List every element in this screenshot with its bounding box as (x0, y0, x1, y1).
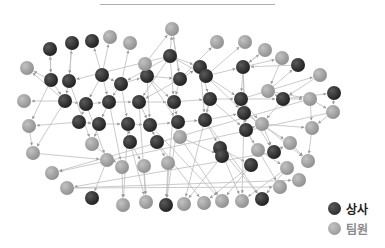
team-node (292, 173, 306, 187)
edge-arrow (37, 123, 72, 126)
boss-node (85, 34, 99, 48)
edge-arrow (318, 116, 327, 123)
boss-node (159, 198, 173, 212)
edge-arrow (253, 127, 255, 128)
edge-arrow (242, 74, 243, 91)
edge-arrow (82, 111, 84, 115)
boss-node (62, 74, 76, 88)
boss-node (167, 95, 181, 109)
edge-arrow (309, 135, 311, 153)
team-node (138, 57, 152, 71)
team-node (251, 143, 265, 157)
boss-node (255, 192, 269, 206)
team-node (116, 198, 130, 212)
team-node (210, 35, 224, 49)
boss-node (102, 95, 116, 109)
edge-arrow (157, 123, 170, 124)
edge-arrow (186, 140, 214, 153)
team-node (103, 30, 117, 44)
team-node (173, 130, 187, 144)
boss-node (239, 123, 253, 137)
edge-arrow (86, 123, 91, 124)
edge-arrow (30, 133, 32, 145)
edge-arrow (142, 108, 147, 118)
boss-node (173, 72, 187, 86)
team-node (137, 159, 151, 173)
boss-node (79, 97, 93, 111)
edge-arrow (175, 109, 176, 114)
team-node (261, 84, 275, 98)
team-node (60, 181, 74, 195)
team-node (139, 195, 153, 209)
edge-arrow (93, 103, 101, 104)
team-node (255, 117, 269, 131)
boss-node (132, 95, 146, 109)
edge-arrow (122, 174, 123, 197)
edge-arrow (249, 54, 259, 62)
edge-arrow (280, 147, 283, 149)
team-node (275, 51, 289, 65)
team-node (238, 35, 252, 49)
edge-arrow (211, 47, 239, 71)
edge-arrow (154, 77, 172, 79)
edge-arrow (271, 64, 279, 83)
boss-node (143, 118, 157, 132)
edge-arrow (40, 154, 99, 160)
team-node (258, 43, 272, 57)
boss-node (85, 191, 99, 205)
boss-node (121, 117, 135, 131)
team-node (305, 121, 319, 135)
boss-node (236, 60, 250, 74)
edge-arrow (122, 91, 126, 116)
team-node (123, 36, 137, 50)
boss-node (199, 69, 213, 83)
boss-node (203, 92, 217, 106)
edge-arrow (275, 95, 277, 96)
team-node (161, 156, 175, 170)
boss-node (72, 115, 86, 129)
legend-label-boss: 상사 (346, 200, 368, 217)
edge-arrow (171, 37, 172, 49)
boss-node (150, 135, 164, 149)
team-node (22, 119, 36, 133)
edge-arrow (181, 100, 202, 102)
boss-node (267, 145, 281, 159)
team-node (26, 146, 40, 160)
legend-item-boss: 상사 (328, 200, 368, 217)
edge-arrow (110, 109, 120, 159)
team-node (273, 180, 287, 194)
edge-arrow (185, 121, 197, 122)
boss-node (114, 77, 128, 91)
boss-node (58, 94, 72, 108)
boss-node (92, 117, 106, 131)
team-node (280, 161, 294, 175)
edge-arrow (33, 86, 49, 119)
edge-arrow (90, 81, 99, 97)
edge-arrow (153, 132, 154, 135)
team-node (17, 94, 31, 108)
team-node (20, 61, 34, 75)
team-node (177, 197, 191, 211)
team-node (197, 196, 211, 210)
team-node (283, 136, 297, 150)
boss-node (140, 69, 154, 83)
edge-arrow (50, 56, 51, 72)
team-node (45, 166, 59, 180)
edge-arrow (37, 107, 61, 146)
boss-node (234, 92, 248, 106)
team-node (215, 194, 229, 208)
boss-node (123, 135, 137, 149)
edge-arrow (94, 49, 100, 69)
boss-node (198, 113, 212, 127)
boss-node (43, 42, 57, 56)
edge-arrow (250, 60, 274, 66)
edge-arrow (152, 81, 168, 97)
team-node (165, 22, 179, 36)
edge-arrow (70, 50, 72, 73)
edge-arrow (215, 104, 240, 125)
edge-arrow (311, 106, 312, 120)
boss-node (95, 68, 109, 82)
edge-arrow (213, 69, 235, 74)
team-node (303, 92, 317, 106)
team-node (85, 137, 99, 151)
